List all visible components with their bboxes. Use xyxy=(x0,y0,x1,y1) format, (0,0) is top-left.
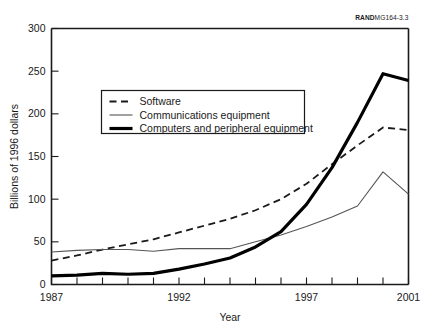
y-tick-label-200: 200 xyxy=(28,107,46,119)
source-tag: RANDMG164-3.3 xyxy=(355,14,409,21)
y-tick-label-0: 0 xyxy=(40,278,46,290)
y-tick-label-250: 250 xyxy=(28,65,46,77)
line-chart: 0501001502002503001987199219972001 Softw… xyxy=(0,0,427,335)
source-tag-text: RANDMG164-3.3 xyxy=(355,14,409,21)
x-tick-label-1987: 1987 xyxy=(40,291,64,303)
x-tick-label-1997: 1997 xyxy=(295,291,319,303)
source-tag-id: MG164-3.3 xyxy=(375,14,409,21)
legend-label-1: Communications equipment xyxy=(140,109,270,121)
series-line-0 xyxy=(52,127,409,260)
source-tag-brand: RAND xyxy=(355,14,375,21)
chart-legend: SoftwareCommunications equipmentComputer… xyxy=(102,91,313,135)
x-axis-title: Year xyxy=(219,311,241,323)
figure-container: 0501001502002503001987199219972001 Softw… xyxy=(0,0,427,335)
legend-label-0: Software xyxy=(140,95,182,107)
series-line-1 xyxy=(52,172,409,252)
x-tick-label-1992: 1992 xyxy=(167,291,191,303)
x-tick-label-2001: 2001 xyxy=(397,291,421,303)
y-axis-title: Billions of 1996 dollars xyxy=(8,104,20,209)
y-tick-label-300: 300 xyxy=(28,22,46,34)
axis-frame-left-bottom xyxy=(52,29,409,285)
legend-label-2: Computers and peripheral equipment xyxy=(140,122,313,134)
y-tick-label-50: 50 xyxy=(34,235,46,247)
y-tick-label-100: 100 xyxy=(28,193,46,205)
y-tick-label-150: 150 xyxy=(28,150,46,162)
